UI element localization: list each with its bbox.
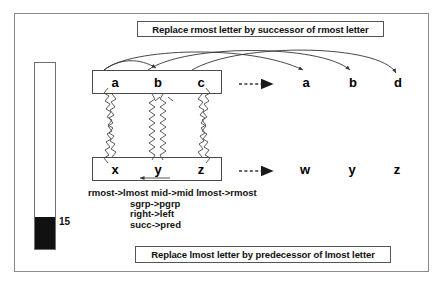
result-letter: d <box>389 75 407 90</box>
result-letter: w <box>296 162 314 177</box>
letter-cell: y <box>136 158 180 180</box>
letter-cell: b <box>136 71 180 93</box>
result-letter: b <box>344 75 362 90</box>
gauge-fill <box>35 217 55 249</box>
result-letter: y <box>343 162 361 177</box>
source-string-box-top: a b c <box>92 70 222 94</box>
mapping-list: rmost->lmost mid->mid lmost->rmost sgrp-… <box>88 188 318 230</box>
letter-cell: a <box>93 71 137 93</box>
mapping-line: rmost->lmost mid->mid lmost->rmost <box>88 188 318 199</box>
result-letter: a <box>297 75 315 90</box>
mapping-line: sgrp->pgrp <box>88 199 318 210</box>
letter-cell: z <box>179 158 223 180</box>
gauge-value-label: 15 <box>59 216 70 227</box>
figure-canvas: Replace rmost letter by successor of rmo… <box>0 0 443 288</box>
letter-cell: c <box>179 71 223 93</box>
mapping-line: right->left <box>88 209 318 220</box>
activation-gauge <box>34 62 56 250</box>
caption-bottom-rule: Replace lmost letter by predecessor of l… <box>135 246 391 263</box>
source-string-box-bottom: x y z <box>92 157 222 181</box>
result-letter: z <box>388 162 406 177</box>
letter-cell: x <box>93 158 137 180</box>
figure-frame <box>14 13 429 272</box>
mapping-line: succ->pred <box>88 220 318 231</box>
caption-top-rule: Replace rmost letter by successor of rmo… <box>137 21 384 37</box>
